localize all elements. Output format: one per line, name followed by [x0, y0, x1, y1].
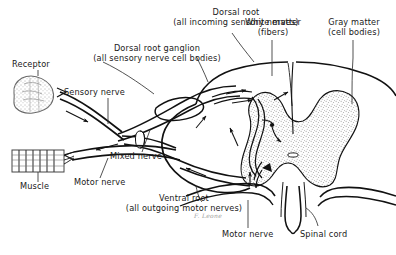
label-mixed-nerve: Mixed nerve [110, 152, 162, 162]
gray-matter-shape [241, 62, 359, 187]
label-dorsal-root-ganglion: Dorsal root ganglion (all sensory nerve … [82, 44, 232, 63]
label-muscle: Muscle [20, 182, 49, 192]
label-sensory-nerve: Sensory nerve [64, 88, 125, 98]
label-white-matter: White matter (fibers) [234, 18, 312, 37]
diagram-canvas: Dorsal root (all incoming sensory nerves… [0, 0, 396, 255]
label-ventral-root: Ventral root (all outgoing motor nerves) [108, 194, 260, 213]
label-receptor: Receptor [12, 60, 50, 70]
label-gray-matter-line2: (cell bodies) [314, 28, 394, 38]
muscle-shape [12, 150, 74, 172]
label-ventral-root-line2: (all outgoing motor nerves) [108, 204, 260, 214]
label-motor-nerve-left: Motor nerve [74, 178, 125, 188]
label-spinal-cord: Spinal cord [300, 230, 347, 240]
label-dorsal-root-ganglion-line2: (all sensory nerve cell bodies) [82, 54, 232, 64]
receptor-shape [14, 76, 54, 113]
artist-signature: F. Leone [194, 212, 222, 219]
label-gray-matter: Gray matter (cell bodies) [314, 18, 394, 37]
label-motor-nerve-bottom: Motor nerve [222, 230, 273, 240]
label-white-matter-line2: (fibers) [234, 28, 312, 38]
